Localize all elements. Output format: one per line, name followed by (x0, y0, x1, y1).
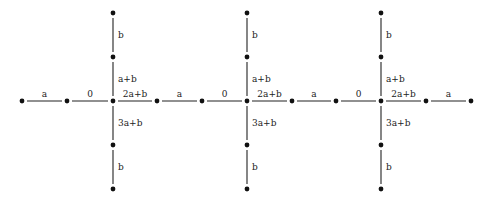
graph-node (245, 55, 250, 60)
edge-label: b (118, 30, 124, 40)
graph-node (111, 99, 116, 104)
edge-label: a (177, 89, 183, 99)
graph-node (424, 99, 429, 104)
graph-node (65, 99, 70, 104)
graph-node (379, 55, 384, 60)
edge-label: 2a+b (123, 89, 148, 99)
edge-label: a (446, 89, 452, 99)
graph-node (111, 11, 116, 16)
edge-label: a (311, 89, 317, 99)
edge-label: a+b (252, 74, 271, 84)
graph-node (379, 187, 384, 192)
graph-node (111, 187, 116, 192)
edge-label: b (252, 30, 258, 40)
edge-label: 0 (356, 89, 362, 99)
graph-node (469, 99, 474, 104)
graph-node (245, 99, 250, 104)
edge-label: a+b (118, 74, 137, 84)
graph-node (245, 187, 250, 192)
graph-node (334, 99, 339, 104)
graph-node (379, 143, 384, 148)
graph-node (111, 55, 116, 60)
edge-label: b (386, 162, 392, 172)
graph-node (155, 99, 160, 104)
graph-node (20, 99, 25, 104)
edge-label: b (118, 162, 124, 172)
edge-label: a (42, 89, 48, 99)
edge-label: 3a+b (252, 118, 277, 128)
graph-node (245, 143, 250, 148)
edge-label: 3a+b (386, 118, 411, 128)
edge-label: 3a+b (118, 118, 143, 128)
edge-label: 0 (222, 89, 228, 99)
graph-node (111, 143, 116, 148)
weighted-graph-diagram: a02a+ba02a+ba02a+baba+b3a+bbba+b3a+bbba+… (0, 0, 490, 202)
edge-label: 2a+b (391, 89, 416, 99)
graph-node (379, 11, 384, 16)
graph-node (290, 99, 295, 104)
edge-label: 2a+b (257, 89, 282, 99)
graph-node (245, 11, 250, 16)
edge-label: 0 (87, 89, 93, 99)
graph-node (379, 99, 384, 104)
graph-node (200, 99, 205, 104)
edge-label: b (386, 30, 392, 40)
edge-label: b (252, 162, 258, 172)
edge-label: a+b (386, 74, 405, 84)
